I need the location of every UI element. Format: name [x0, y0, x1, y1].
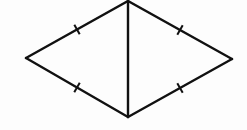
rhombus-diagram [0, 0, 247, 130]
shape-edges [26, 1, 232, 117]
